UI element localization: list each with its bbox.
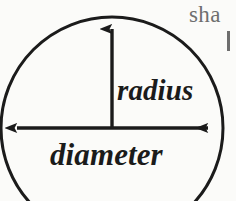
diameter-label: diameter bbox=[50, 139, 163, 170]
surrounding-body-text-line-1: sha bbox=[189, 3, 221, 26]
figure-canvas: radius diameter sha bbox=[0, 0, 236, 201]
radius-label: radius bbox=[117, 76, 193, 105]
clipped-glyph-stroke bbox=[227, 31, 230, 51]
